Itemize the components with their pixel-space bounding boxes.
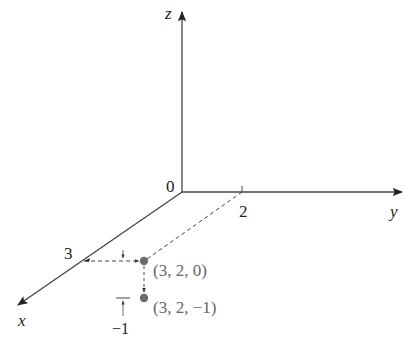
z-offset-label: −1 xyxy=(112,320,129,337)
coordinate-diagram: z y x 0 2 3 −1 (3, 2, 0) (3, 2, −1) xyxy=(0,0,414,346)
point-3-2-minus1 xyxy=(140,294,148,302)
x-axis-label: x xyxy=(17,311,26,330)
minus-one-marker xyxy=(116,298,130,316)
x-axis xyxy=(18,192,182,305)
dashed-y-projection xyxy=(147,192,242,259)
point-3-2-0 xyxy=(140,257,148,265)
diagram-svg: z y x 0 2 3 −1 (3, 2, 0) (3, 2, −1) xyxy=(0,0,414,346)
y-axis-label: y xyxy=(388,202,398,221)
x-tick-label: 3 xyxy=(64,244,73,263)
z-axis-label: z xyxy=(164,4,172,23)
point-label-3-2-0: (3, 2, 0) xyxy=(153,261,207,280)
y-tick-label: 2 xyxy=(239,202,248,221)
origin-label: 0 xyxy=(166,177,175,196)
point-label-3-2-minus1: (3, 2, −1) xyxy=(153,298,216,317)
